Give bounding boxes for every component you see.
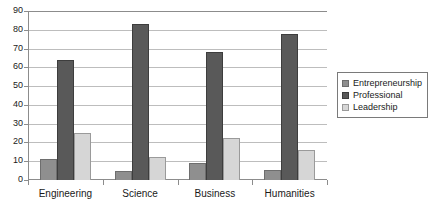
y-tick-label: 0	[1, 175, 23, 184]
y-tick-label: 60	[1, 62, 23, 71]
bar[interactable]	[223, 138, 240, 180]
x-axis-category-label: Science	[103, 188, 178, 200]
legend-item[interactable]: Entrepreneurship	[342, 77, 422, 89]
y-tick-label: 20	[1, 137, 23, 146]
bar-group	[252, 11, 327, 180]
x-tick-mark	[28, 180, 29, 185]
bar-groups	[28, 11, 327, 180]
x-axis-category-label: Engineering	[28, 188, 103, 200]
bar[interactable]	[132, 24, 149, 180]
legend-item[interactable]: Professional	[342, 89, 422, 101]
bar[interactable]	[298, 150, 315, 180]
legend-label: Entrepreneurship	[353, 78, 422, 88]
y-tick-label: 90	[1, 6, 23, 15]
y-tick-label: 80	[1, 25, 23, 34]
bar[interactable]	[281, 34, 298, 180]
legend-label: Leadership	[353, 102, 398, 112]
x-axis-labels: EngineeringScienceBusinessHumanities	[28, 188, 327, 200]
legend[interactable]: EntrepreneurshipProfessionalLeadership	[337, 72, 428, 118]
bar-group	[28, 11, 103, 180]
x-tick-mark	[178, 180, 179, 185]
bar[interactable]	[57, 60, 74, 180]
legend-swatch-icon	[342, 92, 349, 99]
x-tick-mark	[252, 180, 253, 185]
y-tick-label: 70	[1, 44, 23, 53]
y-tick-label: 40	[1, 100, 23, 109]
bar-chart: 0102030405060708090 EngineeringScienceBu…	[0, 0, 443, 208]
x-axis-category-label: Business	[178, 188, 253, 200]
y-tick-label: 30	[1, 119, 23, 128]
bar[interactable]	[40, 159, 57, 180]
bar[interactable]	[189, 163, 206, 180]
legend-item[interactable]: Leadership	[342, 101, 422, 113]
x-tick-mark	[103, 180, 104, 185]
y-tick-label: 10	[1, 156, 23, 165]
bar[interactable]	[149, 157, 166, 180]
bar[interactable]	[206, 52, 223, 180]
bar-group	[103, 11, 178, 180]
bar[interactable]	[264, 170, 281, 180]
bar[interactable]	[115, 171, 132, 180]
bar-group	[178, 11, 253, 180]
legend-swatch-icon	[342, 104, 349, 111]
legend-swatch-icon	[342, 80, 349, 87]
x-axis-category-label: Humanities	[252, 188, 327, 200]
x-tick-mark	[327, 180, 328, 185]
bar[interactable]	[74, 133, 91, 180]
legend-label: Professional	[353, 90, 403, 100]
y-tick-label: 50	[1, 81, 23, 90]
